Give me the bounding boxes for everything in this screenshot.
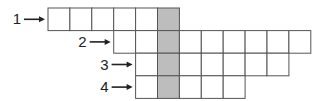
grid-cell xyxy=(136,8,158,31)
arrowhead-icon xyxy=(127,84,133,90)
grid-cell xyxy=(114,8,136,31)
grid-cell xyxy=(223,53,245,76)
grid-cell xyxy=(136,53,158,76)
grid-cell xyxy=(92,8,114,31)
staggered-grid-diagram: 1234 xyxy=(0,0,328,101)
shaded-cell xyxy=(158,31,180,54)
row-label: 2 xyxy=(78,33,86,50)
grid-cell xyxy=(136,76,158,99)
grid-cell xyxy=(114,31,136,54)
grid-cell xyxy=(201,53,223,76)
grid-cell xyxy=(179,31,201,54)
grid-cell xyxy=(201,31,223,54)
grid-cell xyxy=(245,31,267,54)
grid-cell xyxy=(70,8,92,31)
grid-cell xyxy=(245,53,267,76)
shaded-cell xyxy=(158,76,180,99)
row-3: 3 xyxy=(100,53,289,76)
shaded-cell xyxy=(158,53,180,76)
grid-cell xyxy=(267,53,289,76)
row-1: 1 xyxy=(13,8,180,31)
grid-cell xyxy=(179,76,201,99)
grid-cell xyxy=(267,31,289,54)
shaded-cell xyxy=(158,8,180,31)
grid-cell xyxy=(223,31,245,54)
grid-cell xyxy=(48,8,70,31)
grid-cell xyxy=(289,31,311,54)
arrowhead-icon xyxy=(39,16,45,22)
arrowhead-icon xyxy=(127,62,133,68)
grid-cell xyxy=(201,76,223,99)
grid-cell xyxy=(136,31,158,54)
row-2: 2 xyxy=(78,31,310,54)
grid-cell xyxy=(179,53,201,76)
row-label: 4 xyxy=(100,78,108,95)
grid-cell xyxy=(223,76,245,99)
arrowhead-icon xyxy=(105,39,111,45)
row-label: 3 xyxy=(100,56,108,73)
row-label: 1 xyxy=(13,10,21,27)
row-4: 4 xyxy=(100,76,245,99)
